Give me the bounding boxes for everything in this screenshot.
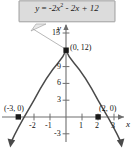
y-axis-arrowhead [63, 24, 68, 30]
x-axis-arrowhead [118, 114, 124, 119]
point-marker-root-right [95, 114, 100, 119]
point-marker-root-left [16, 114, 21, 119]
curve-right-arrowhead [117, 139, 125, 148]
x-tick-label--2: -2 [29, 122, 36, 130]
point-label-y-intercept: (0, 12) [70, 44, 91, 52]
y-tick-label-3: 3 [57, 96, 61, 104]
x-tick-label-3: 3 [111, 122, 115, 130]
point-label-root-right: (2, 0) [99, 105, 116, 113]
callout-tail [31, 24, 46, 31]
callout-box [19, 1, 115, 22]
x-axis-name: x [126, 120, 130, 129]
equation-callout [19, 1, 115, 50]
y-tick-label--3: -3 [54, 130, 61, 138]
y-tick-label-15: 15 [52, 29, 60, 37]
graph-canvas [0, 0, 136, 154]
y-tick-label-6: 6 [57, 79, 61, 87]
x-tick-label--1: -1 [45, 122, 52, 130]
curve-left-arrowhead [8, 139, 16, 148]
point-marker-y-intercept [63, 48, 68, 53]
callout-leader-line [33, 29, 67, 50]
y-tick-label-9: 9 [57, 63, 61, 71]
point-label-root-left: (-3, 0) [4, 105, 24, 113]
parabola-figure: y = -2x2 - 2x + 12 y x -2 -1 1 2 3 15 9 … [0, 0, 136, 154]
x-tick-label-1: 1 [79, 122, 83, 130]
x-tick-label-2: 2 [95, 122, 99, 130]
